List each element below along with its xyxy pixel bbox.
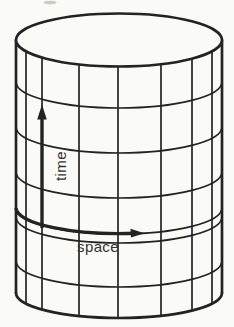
space-axis-label: space bbox=[77, 238, 119, 255]
time-axis-label: time bbox=[52, 151, 69, 181]
scan-artifact bbox=[44, 1, 57, 5]
cylinder-universe-figure: time space bbox=[0, 0, 234, 327]
cylinder-top-face bbox=[16, 14, 222, 67]
cylinder-diagram-canvas: time space bbox=[0, 0, 234, 327]
